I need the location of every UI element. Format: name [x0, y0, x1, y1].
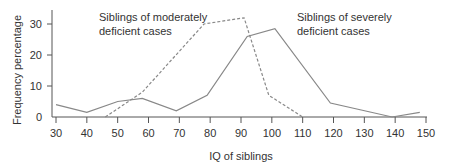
x-tick-label: 120 — [324, 127, 342, 139]
y-tick-label: 30 — [30, 18, 42, 30]
x-tick-label: 110 — [294, 127, 312, 139]
y-tick-label: 0 — [36, 111, 42, 123]
x-tick-label: 60 — [142, 127, 154, 139]
series-label-moderate-line2: deficient cases — [99, 25, 172, 37]
series-label-severe-line2: deficient cases — [297, 25, 370, 37]
x-axis-label: IQ of siblings — [209, 150, 273, 162]
x-tick-label: 90 — [235, 127, 247, 139]
y-axis-label: Frequency percentage — [11, 15, 23, 125]
x-tick-label: 70 — [173, 127, 185, 139]
series-label-severe-line1: Siblings of severely — [297, 11, 392, 23]
axis-ticks: 010203030405060708090100110120130140150 — [30, 18, 435, 139]
x-tick-label: 130 — [355, 127, 373, 139]
x-tick-label: 40 — [81, 127, 93, 139]
y-tick-label: 20 — [30, 49, 42, 61]
x-tick-label: 100 — [263, 127, 281, 139]
series-severe-solid-line — [56, 29, 420, 117]
x-tick-label: 150 — [417, 127, 435, 139]
series-label-moderate-line1: Siblings of moderately — [99, 11, 208, 23]
x-tick-label: 80 — [204, 127, 216, 139]
y-tick-label: 10 — [30, 80, 42, 92]
x-tick-label: 50 — [112, 127, 124, 139]
x-tick-label: 30 — [50, 127, 62, 139]
frequency-line-chart: 010203030405060708090100110120130140150 … — [0, 0, 451, 166]
x-tick-label: 140 — [386, 127, 404, 139]
